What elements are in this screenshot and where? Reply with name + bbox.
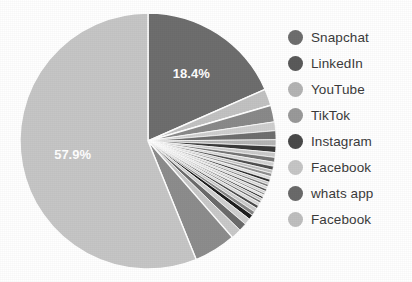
legend-swatch-circle-icon	[288, 56, 303, 71]
pie-chart-figure: 18.4%57.9% SnapchatLinkedInYouTubeTikTok…	[0, 0, 412, 282]
chart-legend: SnapchatLinkedInYouTubeTikTokInstagramFa…	[288, 24, 412, 232]
legend-item[interactable]: Facebook	[288, 206, 412, 232]
legend-item-label: Facebook	[311, 160, 371, 175]
legend-swatch-circle-icon	[288, 134, 303, 149]
pie-slice-percent-label: 18.4%	[173, 66, 210, 81]
legend-swatch-circle-icon	[288, 160, 303, 175]
pie-chart-plot-area: 18.4%57.9%	[0, 0, 285, 282]
legend-swatch-circle-icon	[288, 30, 303, 45]
legend-item[interactable]: Snapchat	[288, 24, 412, 50]
legend-item-label: Snapchat	[311, 30, 369, 45]
legend-item[interactable]: Instagram	[288, 128, 412, 154]
legend-swatch-circle-icon	[288, 108, 303, 123]
legend-item-label: whats app	[311, 186, 373, 201]
pie-slice-percent-label: 57.9%	[54, 147, 91, 162]
legend-item-label: TikTok	[311, 108, 350, 123]
pie-slices-group	[20, 13, 276, 269]
legend-item-label: LinkedIn	[311, 56, 363, 71]
pie-chart-svg: 18.4%57.9%	[0, 0, 285, 282]
legend-item[interactable]: YouTube	[288, 76, 412, 102]
legend-item[interactable]: LinkedIn	[288, 50, 412, 76]
legend-item-label: YouTube	[311, 82, 365, 97]
legend-item-label: Facebook	[311, 212, 371, 227]
legend-swatch-circle-icon	[288, 212, 303, 227]
legend-item[interactable]: Facebook	[288, 154, 412, 180]
legend-swatch-circle-icon	[288, 82, 303, 97]
legend-swatch-circle-icon	[288, 186, 303, 201]
legend-item-label: Instagram	[311, 134, 372, 149]
legend-item[interactable]: TikTok	[288, 102, 412, 128]
legend-item[interactable]: whats app	[288, 180, 412, 206]
